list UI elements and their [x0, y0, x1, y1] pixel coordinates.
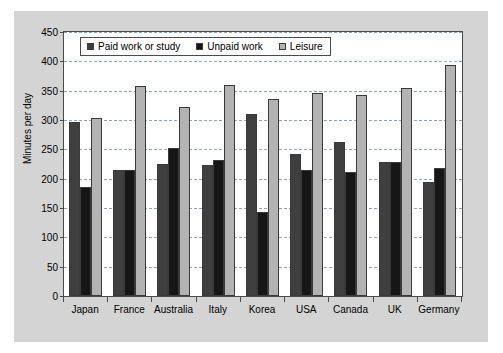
plot-frame	[63, 31, 463, 297]
legend-label: Paid work or study	[98, 41, 180, 52]
bar-uk-unpaid-work	[390, 162, 401, 296]
x-tick-7	[373, 297, 374, 302]
y-tick-label-150: 150	[41, 203, 58, 214]
bar-group-australia	[152, 32, 196, 296]
bar-italy-unpaid-work	[213, 160, 224, 296]
y-tick-label-400: 400	[41, 56, 58, 67]
legend-item-paid-work-or-study[interactable]: Paid work or study	[87, 41, 180, 52]
bar-australia-paid-work-or-study	[157, 164, 168, 296]
bar-uk-paid-work-or-study	[379, 162, 390, 296]
x-tick-8	[417, 297, 418, 302]
bar-germany-leisure	[445, 65, 456, 296]
bar-australia-leisure	[179, 107, 190, 296]
chart-legend: Paid work or studyUnpaid workLeisure	[80, 37, 331, 56]
legend-swatch-icon	[196, 43, 203, 50]
x-tick-0	[63, 297, 64, 302]
x-axis-label-uk: UK	[388, 304, 402, 315]
x-axis: JapanFranceAustraliaItalyKoreaUSACanadaU…	[63, 297, 463, 323]
y-tick-label-200: 200	[41, 173, 58, 184]
bar-france-unpaid-work	[124, 170, 135, 296]
bar-korea-unpaid-work	[257, 212, 268, 296]
x-tick-1	[107, 297, 108, 302]
bar-italy-paid-work-or-study	[202, 165, 213, 296]
legend-item-leisure[interactable]: Leisure	[279, 41, 323, 52]
y-tick-label-100: 100	[41, 232, 58, 243]
bar-australia-unpaid-work	[168, 148, 179, 296]
bar-japan-leisure	[91, 118, 102, 296]
legend-label: Unpaid work	[207, 41, 263, 52]
x-tick-9	[461, 297, 462, 302]
bar-group-korea	[241, 32, 285, 296]
x-axis-label-canada: Canada	[333, 304, 368, 315]
legend-item-unpaid-work[interactable]: Unpaid work	[196, 41, 263, 52]
bar-group-germany	[418, 32, 462, 296]
bar-uk-leisure	[401, 88, 412, 296]
x-tick-2	[151, 297, 152, 302]
x-tick-5	[284, 297, 285, 302]
x-axis-label-korea: Korea	[249, 304, 276, 315]
y-axis-tick-labels: 450400350300250200150100500	[14, 31, 58, 297]
bar-usa-unpaid-work	[301, 170, 312, 296]
x-axis-label-italy: Italy	[209, 304, 227, 315]
x-tick-6	[328, 297, 329, 302]
bar-france-paid-work-or-study	[113, 170, 124, 296]
y-tick-label-350: 350	[41, 85, 58, 96]
legend-label: Leisure	[290, 41, 323, 52]
bar-germany-paid-work-or-study	[423, 182, 434, 296]
bar-korea-paid-work-or-study	[246, 114, 257, 296]
bar-group-italy	[197, 32, 241, 296]
chart-figure: Minutes per day 450400350300250200150100…	[14, 11, 488, 342]
bar-group-usa	[285, 32, 329, 296]
plot-area	[64, 32, 462, 296]
bar-group-uk	[374, 32, 418, 296]
bar-group-france	[108, 32, 152, 296]
y-tick-label-0: 0	[52, 291, 58, 302]
y-tick-label-50: 50	[47, 261, 58, 272]
bar-group-canada	[329, 32, 373, 296]
x-axis-label-japan: Japan	[71, 304, 98, 315]
x-axis-label-france: France	[114, 304, 145, 315]
legend-swatch-icon	[87, 43, 94, 50]
y-tick-label-450: 450	[41, 27, 58, 38]
x-axis-label-usa: USA	[296, 304, 317, 315]
legend-swatch-icon	[279, 43, 286, 50]
bar-usa-paid-work-or-study	[290, 154, 301, 296]
bar-germany-unpaid-work	[434, 168, 445, 296]
bar-canada-unpaid-work	[345, 172, 356, 296]
bar-canada-leisure	[356, 95, 367, 296]
y-tick-label-300: 300	[41, 115, 58, 126]
bar-group-japan	[64, 32, 108, 296]
bar-france-leisure	[135, 86, 146, 296]
bar-japan-unpaid-work	[80, 187, 91, 296]
bar-japan-paid-work-or-study	[69, 122, 80, 296]
bar-korea-leisure	[268, 99, 279, 296]
x-tick-4	[240, 297, 241, 302]
bar-italy-leisure	[224, 85, 235, 296]
x-tick-3	[196, 297, 197, 302]
bar-usa-leisure	[312, 93, 323, 296]
x-axis-label-australia: Australia	[154, 304, 193, 315]
bar-canada-paid-work-or-study	[334, 142, 345, 296]
x-axis-label-germany: Germany	[418, 304, 459, 315]
y-tick-label-250: 250	[41, 144, 58, 155]
